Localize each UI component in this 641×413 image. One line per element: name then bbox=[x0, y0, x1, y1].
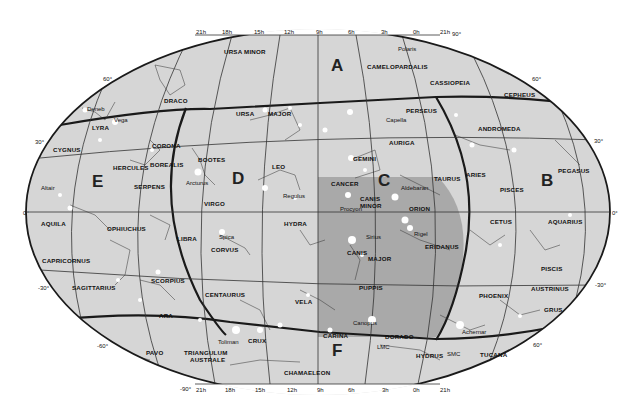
object-smc: SMC bbox=[447, 351, 460, 357]
constellation-canis-major-1: CANIS bbox=[347, 250, 367, 256]
constellation-taurus: TAURUS bbox=[434, 176, 461, 182]
constellation-canis-minor-2: MINOR bbox=[360, 203, 382, 209]
constellation-canis-major-2: MAJOR bbox=[368, 256, 391, 262]
constellation-vela: VELA bbox=[295, 299, 312, 305]
dec-tick-left: 30° bbox=[35, 139, 44, 145]
zone-label-e: E bbox=[92, 173, 103, 190]
constellation-ara: ARA bbox=[159, 313, 173, 319]
constellation-tucana: TUCANA bbox=[480, 352, 507, 358]
constellation-virgo: VIRGO bbox=[204, 201, 225, 207]
star-altair: Altair bbox=[41, 185, 55, 191]
star-sirius: Sirius bbox=[366, 234, 381, 240]
constellation-eridanus: ERIDANUS bbox=[425, 244, 459, 250]
constellation-ursa: URSA bbox=[236, 111, 254, 117]
constellation-perseus: PERSEUS bbox=[406, 108, 437, 114]
dec-tick-right: 60° bbox=[533, 342, 542, 348]
zone-label-d: D bbox=[232, 170, 244, 187]
star-achernar: Achernar bbox=[462, 329, 486, 335]
star-procyon: Procyon bbox=[340, 206, 362, 212]
constellation-centaurus: CENTAURUS bbox=[205, 292, 245, 298]
constellation-corvus: CORVUS bbox=[211, 247, 239, 253]
ra-tick-bottom: 21h bbox=[196, 387, 206, 393]
ra-tick-bottom: 12h bbox=[287, 387, 297, 393]
zone-label-f: F bbox=[332, 342, 342, 359]
constellation-hercules: HERCULES bbox=[113, 165, 149, 171]
dec-tick-left: -30° bbox=[38, 285, 49, 291]
constellation-gemini: GEMINI bbox=[353, 156, 376, 162]
dec-tick-right: 60° bbox=[532, 76, 541, 82]
constellation-austrinus: AUSTRINUS bbox=[531, 286, 569, 292]
constellation-scorpius: SCORPIUS bbox=[151, 278, 185, 284]
star-vega: Vega bbox=[114, 117, 128, 123]
dec-tick-left: 60° bbox=[103, 76, 112, 82]
ra-tick-bottom: 3h bbox=[382, 387, 389, 393]
constellation-crux: CRUX bbox=[248, 338, 266, 344]
dec-tick-left: 0° bbox=[23, 210, 29, 216]
ra-tick-bottom: 15h bbox=[255, 387, 265, 393]
star-aldebaran: Aldebaran bbox=[401, 185, 428, 191]
dec-tick-right: 0° bbox=[612, 210, 618, 216]
object-lmc: LMC bbox=[377, 344, 390, 350]
zone-label-b: B bbox=[541, 172, 553, 189]
ra-tick-bottom: 21h bbox=[440, 387, 450, 393]
constellation-andromeda: ANDROMEDA bbox=[478, 126, 521, 132]
ra-tick-bottom: 9h bbox=[317, 387, 324, 393]
ra-tick-top: 12h bbox=[284, 29, 294, 35]
constellation-leo: LEO bbox=[272, 164, 285, 170]
constellation-capricornus: CAPRICORNUS bbox=[42, 258, 90, 264]
constellation-aquarius: AQUARIUS bbox=[548, 219, 583, 225]
constellation-hydrus: HYDRUS bbox=[416, 353, 443, 359]
star-spica: Spica bbox=[219, 234, 234, 240]
ra-tick-top: 0h bbox=[413, 29, 420, 35]
constellation-aries: ARIES bbox=[466, 172, 486, 178]
zone-label-a: A bbox=[331, 57, 343, 74]
dec-tick-pole-north: 90° bbox=[452, 31, 461, 37]
constellation-auriga: AURIGA bbox=[389, 140, 415, 146]
constellation-ophiuchus: OPHIUCHUS bbox=[107, 226, 146, 232]
star-rigel: Rigel bbox=[414, 231, 428, 237]
constellation-major: MAJOR bbox=[268, 111, 291, 117]
ra-tick-bottom: 18h bbox=[225, 387, 235, 393]
star-regulus: Regulus bbox=[283, 193, 305, 199]
zone-label-c: C bbox=[378, 172, 390, 189]
constellation-cancer: CANCER bbox=[331, 181, 359, 187]
constellation-ursa-minor: URSA MINOR bbox=[224, 49, 266, 55]
star-arcturus: Arcturus bbox=[186, 180, 208, 186]
constellation-lyra: LYRA bbox=[92, 125, 109, 131]
ra-tick-bottom: 0h bbox=[413, 387, 420, 393]
constellation-cygnus: CYGNUS bbox=[53, 147, 81, 153]
constellation-grus: GRUS bbox=[544, 307, 563, 313]
constellation-serpens: SERPENS bbox=[134, 184, 165, 190]
constellation-dorado: DORADO bbox=[385, 334, 414, 340]
ra-tick-top: 21h bbox=[196, 29, 206, 35]
star-chart bbox=[0, 0, 641, 413]
constellation-piscis: PISCIS bbox=[541, 266, 563, 272]
constellation-pisces: PISCES bbox=[500, 187, 524, 193]
constellation-orion: ORION bbox=[409, 206, 430, 212]
ra-tick-top: 18h bbox=[222, 29, 232, 35]
constellation-cetus: CETUS bbox=[490, 219, 512, 225]
constellation-hydra: HYDRA bbox=[284, 221, 307, 227]
constellation-borealis: BOREALIS bbox=[150, 162, 184, 168]
ra-tick-top: 15h bbox=[254, 29, 264, 35]
dec-tick-right: -30° bbox=[595, 282, 606, 288]
dec-tick-left: -60° bbox=[97, 343, 108, 349]
constellation-pegasus: PEGASUS bbox=[558, 168, 590, 174]
star-polaris: Polaris bbox=[398, 46, 416, 52]
constellation-draco: DRACO bbox=[164, 98, 188, 104]
constellation-australe: AUSTRALE bbox=[190, 357, 225, 363]
constellation-aquila: AQUILA bbox=[41, 221, 66, 227]
star-deneb: Deneb bbox=[87, 106, 105, 112]
constellation-bootes: BOOTES bbox=[198, 157, 225, 163]
constellation-cassiopeia: CASSIOPEIA bbox=[430, 80, 470, 86]
ra-tick-top: 21h bbox=[440, 29, 450, 35]
star-canopus: Canopus bbox=[353, 320, 377, 326]
ra-tick-top: 3h bbox=[381, 29, 388, 35]
dec-tick-right: 30° bbox=[594, 138, 603, 144]
constellation-puppis: PUPPIS bbox=[359, 285, 383, 291]
ra-tick-bottom: 6h bbox=[348, 387, 355, 393]
constellation-phoenix: PHOENIX bbox=[479, 293, 508, 299]
ra-tick-top: 6h bbox=[348, 29, 355, 35]
star-toliman: Toliman bbox=[218, 339, 239, 345]
constellation-libra: LIBRA bbox=[177, 236, 197, 242]
